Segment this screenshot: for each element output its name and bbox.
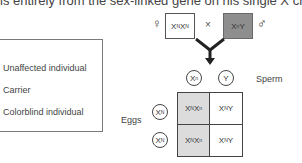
egg-allele-xN-1: XN: [152, 104, 168, 120]
mother-genotype-box: XNXN: [165, 13, 195, 39]
allele-base: Y: [223, 74, 228, 83]
allele-sup: N: [185, 23, 189, 29]
sperm-allele-y: Y: [218, 70, 234, 86]
legend-carrier: Carrier: [3, 85, 31, 95]
sperm-allele-xn: Xn: [186, 70, 202, 86]
punnett-cell-carrier: XNXn: [178, 125, 210, 157]
father-genotype-box: XnY: [223, 13, 253, 39]
allele-sup: n: [195, 75, 198, 81]
eggs-label: Eggs: [121, 115, 142, 125]
allele-base: Y: [228, 104, 233, 113]
allele-sup: n: [199, 137, 202, 143]
punnett-cell-carrier: XNXn: [178, 93, 210, 125]
allele-sup: n: [199, 105, 202, 111]
male-symbol-icon: ♂: [257, 17, 267, 30]
punnett-cell-unaffected: XNY: [210, 93, 242, 125]
allele-base: Y: [239, 22, 244, 31]
egg-allele-xN-2: XN: [152, 132, 168, 148]
female-symbol-icon: ♀: [152, 17, 162, 30]
header-text: is entirely from the sex-linked gene on …: [0, 0, 302, 8]
punnett-square: XNXn XNY XNXn XNY: [177, 92, 243, 157]
allele-sup: N: [161, 109, 165, 115]
sperm-label: Sperm: [256, 74, 283, 84]
merge-arrow-icon: [190, 38, 230, 66]
legend-unaffected: Unaffected individual: [3, 63, 86, 73]
legend-colorblind: Colorblind individual: [3, 107, 84, 117]
allele-sup: N: [161, 137, 165, 143]
cross-symbol: ×: [205, 19, 211, 30]
allele-base: Y: [228, 136, 233, 145]
punnett-cell-unaffected: XNY: [210, 125, 242, 157]
